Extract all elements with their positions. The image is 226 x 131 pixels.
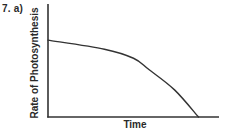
x-axis-label: Time (123, 119, 146, 130)
y-axis-label: Rate of Photosynthesis (29, 7, 40, 118)
rate-curve (48, 40, 198, 117)
